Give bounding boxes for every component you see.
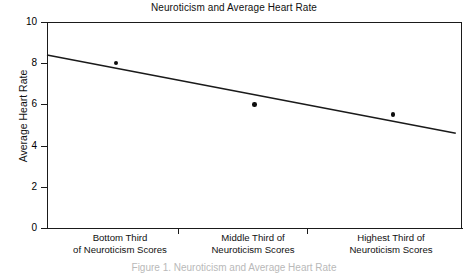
figure-caption: Figure 1. Neuroticism and Average Heart … <box>0 262 468 273</box>
data-point-middle-third <box>252 102 257 107</box>
trendline <box>47 55 456 133</box>
data-point-highest-third <box>391 112 396 117</box>
